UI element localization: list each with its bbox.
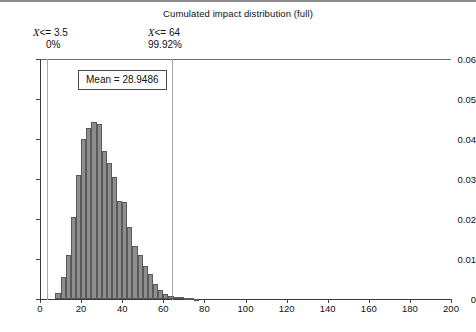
mean-label-box: Mean = 28.9486 <box>78 70 167 90</box>
chart-figure: Cumulated impact distribution (full) X<=… <box>0 0 476 332</box>
histogram-bar <box>194 299 199 301</box>
histogram-bars <box>0 0 476 332</box>
